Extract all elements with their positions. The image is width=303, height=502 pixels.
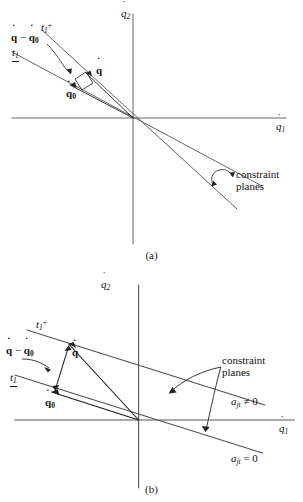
constraint-plane-a-2 (12, 52, 262, 186)
panel-a: t1+ t1 ˙q − ˙q0 ˙q ˙q0 constraint planes… (0, 0, 303, 270)
vector-qdot-diff-b (55, 346, 68, 390)
panel-a-graphic (0, 0, 303, 270)
label-t1-plus-b: t1+ (36, 319, 47, 332)
arrowhead-qdotdiff-bot-b (52, 385, 59, 391)
arrowhead-cp-a-upper (230, 172, 236, 178)
arrowhead-cp-a-lower (212, 181, 218, 187)
constraint-plane-a-1 (42, 30, 237, 209)
label-constraint-planes-b: constraint planes (222, 354, 284, 379)
label-qdot-a: ˙q (96, 65, 102, 77)
label-qdot-diff-a: ˙q − ˙q0 (11, 32, 39, 45)
label-ajt-zero: ajt = 0 (231, 453, 258, 466)
label-qdot-diff-b: ˙q − ˙q0 (6, 345, 34, 358)
caption-panel-b: (b) (0, 483, 303, 495)
y-axis-label-b: ˙q2 (101, 279, 110, 292)
arrowhead-cp-b-lower (202, 426, 210, 432)
label-qdot-zero-a: ˙q0 (66, 88, 76, 101)
leader-constraint-planes-b (171, 367, 221, 430)
label-qdot-zero-b: ˙q0 (45, 397, 55, 410)
leader-qdotdiff-a (47, 44, 70, 73)
label-t1-minus-b: t1 (10, 372, 17, 385)
x-axis-label-a: ˙q1 (276, 121, 285, 134)
vector-qdot0-a (70, 85, 133, 118)
panel-b: t1+ t1 ˙q − ˙q0 ˙q ˙q0 constraint planes… (0, 255, 303, 502)
label-ajt-nonzero: ajt ≠ 0 (231, 396, 258, 409)
figure-root: t1+ t1 ˙q − ˙q0 ˙q ˙q0 constraint planes… (0, 0, 303, 502)
arrowhead-leader-qdotdiff-b (44, 367, 51, 373)
arrowhead-leader-qdotdiff-a (67, 69, 73, 75)
label-t1-minus-a: t1 (12, 47, 19, 60)
x-axis-label-b: ˙q1 (279, 423, 288, 436)
y-axis-label-a: ˙q2 (121, 8, 130, 21)
leader-qdotdiff-b (22, 359, 49, 368)
label-qdot-b: ˙q (72, 347, 78, 359)
label-constraint-planes-a: constraint planes (236, 168, 298, 193)
label-t1-plus-a: t1+ (41, 22, 52, 35)
